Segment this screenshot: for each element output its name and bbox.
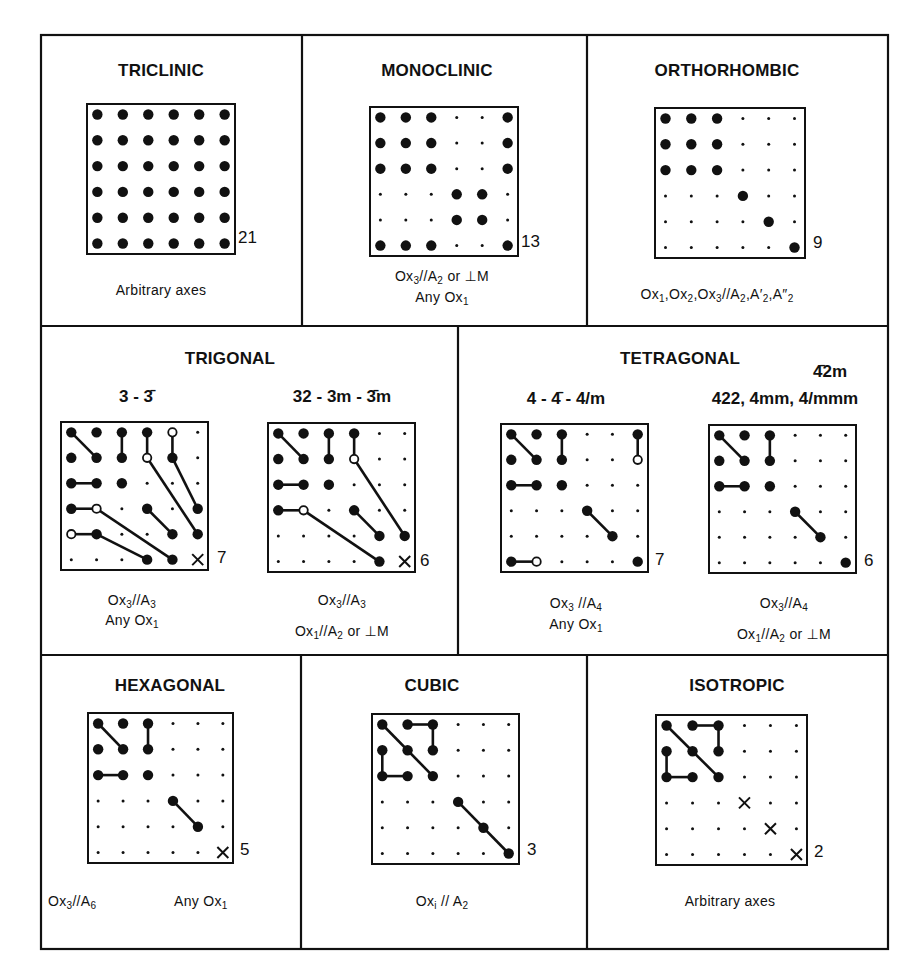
nonzero-dot bbox=[118, 213, 128, 223]
zero-dot bbox=[507, 749, 510, 752]
zero-dot bbox=[718, 536, 721, 539]
nonzero-dot bbox=[765, 481, 775, 491]
nonzero-dot bbox=[143, 770, 153, 780]
nonzero-dot bbox=[143, 744, 153, 754]
zero-dot bbox=[794, 536, 797, 539]
zero-dot bbox=[769, 776, 772, 779]
caption-tetragonal-right-2: Ox1//A2 or ⊥M bbox=[737, 626, 831, 644]
nonzero-dot bbox=[660, 139, 670, 149]
zero-dot bbox=[97, 799, 100, 802]
nonzero-dot bbox=[426, 163, 436, 173]
zero-dot bbox=[718, 510, 721, 513]
zero-dot bbox=[743, 750, 746, 753]
nonzero-dot bbox=[660, 165, 670, 175]
matrix-triclinic bbox=[87, 104, 235, 254]
nonzero-dot bbox=[143, 187, 153, 197]
cross-mark bbox=[765, 823, 776, 834]
nonzero-dot bbox=[687, 772, 697, 782]
zero-dot bbox=[507, 775, 510, 778]
cross-mark bbox=[192, 554, 203, 565]
panel-title-monoclinic: MONOCLINIC bbox=[381, 61, 493, 81]
nonzero-dot bbox=[167, 529, 177, 539]
nonzero-dot bbox=[377, 745, 387, 755]
nonzero-dot bbox=[714, 456, 724, 466]
nonzero-dot bbox=[764, 217, 774, 227]
zero-dot bbox=[795, 801, 798, 804]
nonzero-dot bbox=[118, 135, 128, 145]
nonzero-dot bbox=[66, 478, 76, 488]
count-tetragonal-right: 6 bbox=[864, 551, 873, 571]
nonzero-dot bbox=[401, 163, 411, 173]
zero-dot bbox=[97, 825, 100, 828]
count-triclinic: 21 bbox=[238, 228, 257, 248]
zero-dot bbox=[378, 432, 381, 435]
nonzero-dot bbox=[502, 112, 512, 122]
nonzero-dot bbox=[219, 238, 229, 248]
nonzero-dot bbox=[687, 720, 697, 730]
zero-dot bbox=[381, 800, 384, 803]
nonzero-dot bbox=[92, 161, 102, 171]
nonzero-dot bbox=[686, 165, 696, 175]
zero-dot bbox=[404, 218, 407, 221]
matrix-orthorhombic bbox=[655, 108, 805, 258]
nonzero-dot bbox=[143, 718, 153, 728]
zero-dot bbox=[122, 825, 125, 828]
zero-dot bbox=[636, 535, 639, 538]
zero-dot bbox=[507, 723, 510, 726]
nonzero-dot bbox=[93, 770, 103, 780]
nonzero-dot bbox=[686, 113, 696, 123]
nonzero-dot bbox=[714, 481, 724, 491]
zero-dot bbox=[741, 246, 744, 249]
zero-dot bbox=[611, 433, 614, 436]
count-trigonal-right: 6 bbox=[420, 551, 429, 571]
zero-dot bbox=[378, 483, 381, 486]
nonzero-dot bbox=[91, 478, 101, 488]
caption-trigonal-right-2: Ox1//A2 or ⊥M bbox=[295, 623, 389, 641]
zero-dot bbox=[457, 852, 460, 855]
zero-dot bbox=[768, 561, 771, 564]
classes-tetragonal-right-top: 4̄2m bbox=[813, 362, 847, 382]
zero-dot bbox=[560, 560, 563, 563]
nonzero-dot bbox=[714, 430, 724, 440]
nonzero-dot bbox=[739, 430, 749, 440]
zero-dot bbox=[122, 851, 125, 854]
negative-circle bbox=[143, 454, 151, 462]
nonzero-dot bbox=[92, 238, 102, 248]
count-hexagonal: 5 bbox=[240, 840, 249, 860]
nonzero-dot bbox=[194, 135, 204, 145]
zero-dot bbox=[819, 434, 822, 437]
nonzero-dot bbox=[582, 506, 592, 516]
nonzero-dot bbox=[713, 772, 723, 782]
zero-dot bbox=[406, 852, 409, 855]
nonzero-dot bbox=[298, 454, 308, 464]
nonzero-dot bbox=[713, 746, 723, 756]
zero-dot bbox=[431, 852, 434, 855]
zero-dot bbox=[636, 484, 639, 487]
count-monoclinic: 13 bbox=[521, 232, 540, 252]
nonzero-dot bbox=[117, 427, 127, 437]
zero-dot bbox=[277, 534, 280, 537]
zero-dot bbox=[97, 851, 100, 854]
zero-dot bbox=[378, 509, 381, 512]
zero-dot bbox=[221, 825, 224, 828]
zero-dot bbox=[146, 533, 149, 536]
cross-mark bbox=[399, 556, 410, 567]
equality-link bbox=[147, 509, 172, 534]
nonzero-dot bbox=[375, 163, 385, 173]
zero-dot bbox=[171, 722, 174, 725]
zero-dot bbox=[664, 194, 667, 197]
zero-dot bbox=[327, 560, 330, 563]
zero-dot bbox=[717, 853, 720, 856]
zero-dot bbox=[406, 826, 409, 829]
zero-dot bbox=[767, 194, 770, 197]
caption-hexagonal-left: Ox3//A6 bbox=[48, 893, 96, 911]
nonzero-dot bbox=[93, 718, 103, 728]
nonzero-dot bbox=[401, 240, 411, 250]
nonzero-dot bbox=[349, 505, 359, 515]
classes-trigonal-right: 32 - 3m - 3̄m bbox=[293, 387, 391, 407]
nonzero-dot bbox=[118, 744, 128, 754]
nonzero-dot bbox=[219, 213, 229, 223]
nonzero-dot bbox=[169, 187, 179, 197]
nonzero-dot bbox=[557, 480, 567, 490]
cross-mark bbox=[739, 797, 750, 808]
